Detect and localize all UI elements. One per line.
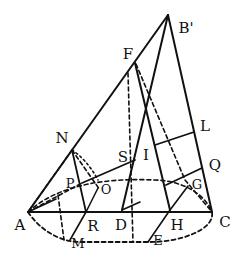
label-N: N [55,131,68,146]
label-B: B' [178,21,193,36]
label-R: R [87,219,98,234]
line-D-tick [122,202,140,210]
line-L-rung [155,132,194,145]
label-P: P [66,176,75,191]
label-O: O [101,182,112,197]
label-S: S [118,150,128,165]
label-Q: Q [209,158,221,173]
label-H: H [170,218,183,233]
line-RO [86,188,98,212]
dash-N-M [58,195,64,240]
label-G: G [192,177,202,192]
label-F: F [123,47,133,62]
label-I: I [143,148,149,163]
base-ellipse-back [28,180,212,212]
label-L: L [200,119,210,134]
label-D: D [115,218,127,233]
line-HG [170,186,188,210]
label-A: A [15,218,26,233]
label-C: C [219,215,230,230]
label-M: M [71,236,84,251]
dash-F-vertical [128,73,133,242]
label-E: E [153,233,163,248]
